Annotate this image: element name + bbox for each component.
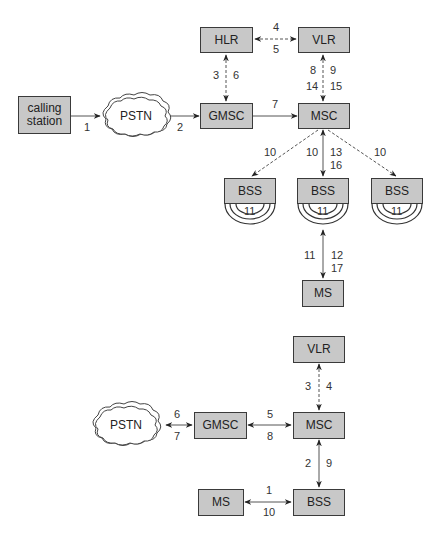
- label-2: 2: [177, 121, 183, 133]
- label-b-10: 10: [263, 506, 275, 518]
- label-11-radio-3: 11: [391, 205, 402, 217]
- label-10-a: 10: [264, 146, 276, 158]
- label-b-2: 2: [305, 457, 311, 469]
- label-b-4: 4: [326, 380, 332, 392]
- label-11-radio-2: 11: [317, 205, 328, 217]
- label-b-9: 9: [326, 457, 332, 469]
- label-15: 15: [330, 80, 342, 92]
- label-3: 3: [213, 69, 219, 81]
- label-10-b: 10: [306, 146, 318, 158]
- label-10-c: 10: [374, 146, 386, 158]
- label-1: 1: [84, 121, 90, 133]
- label-b-8: 8: [267, 430, 273, 442]
- node-calling-station: calling station: [18, 96, 71, 134]
- node-vlr: VLR: [298, 27, 350, 53]
- label-11-radio-1: 11: [244, 205, 255, 217]
- node-msc: MSC: [298, 103, 350, 129]
- label-7: 7: [272, 98, 278, 110]
- label-12: 12: [331, 249, 343, 261]
- node-bss-2: BSS: [297, 178, 349, 204]
- label-13: 13: [330, 146, 342, 158]
- label-6: 6: [233, 69, 239, 81]
- node-hlr: HLR: [200, 27, 253, 53]
- node-b-msc: MSC: [293, 412, 345, 439]
- label-9: 9: [330, 64, 336, 76]
- node-pstn: PSTN: [118, 109, 154, 123]
- label-14: 14: [306, 80, 318, 92]
- label-5: 5: [273, 43, 279, 55]
- node-gmsc: GMSC: [200, 103, 253, 129]
- label-11: 11: [304, 249, 315, 261]
- node-b-gmsc: GMSC: [194, 412, 247, 439]
- node-b-ms: MS: [198, 489, 244, 516]
- node-ms: MS: [302, 280, 344, 307]
- label-4: 4: [273, 21, 279, 33]
- label-b-3: 3: [305, 380, 311, 392]
- node-b-pstn: PSTN: [108, 418, 144, 432]
- node-bss-3: BSS: [371, 178, 423, 204]
- node-b-bss: BSS: [293, 489, 345, 516]
- label-b-1: 1: [266, 484, 272, 496]
- label-16: 16: [330, 159, 342, 171]
- node-b-vlr: VLR: [293, 336, 345, 363]
- label-b-7: 7: [174, 430, 180, 442]
- label-b-6: 6: [174, 408, 180, 420]
- label-17: 17: [331, 262, 343, 274]
- label-b-5: 5: [267, 408, 273, 420]
- node-bss-1: BSS: [224, 178, 276, 204]
- label-8: 8: [310, 64, 316, 76]
